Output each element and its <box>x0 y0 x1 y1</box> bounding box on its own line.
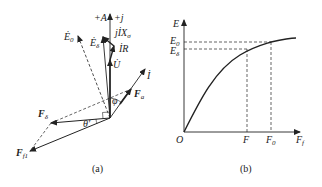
figure-canvas: +A +j jİXσ İR Ė0 Ėδ U̇ İ Fa Fδ Ff1 φ θ′ … <box>0 0 322 187</box>
F-tick-label: F <box>242 134 250 145</box>
theta-label: θ′ <box>83 118 91 129</box>
E-delta-phasor <box>103 37 110 118</box>
E0-phasor <box>78 36 110 118</box>
caption-b: (b) <box>240 163 252 175</box>
E-delta-label: Ėδ <box>89 37 100 50</box>
magnetization-curve: E E0 Eδ O F F0 Ff (b) <box>169 18 305 175</box>
saturation-curve <box>184 38 296 132</box>
U-label: U̇ <box>113 59 121 70</box>
y-axis-label: E <box>172 18 179 29</box>
F0-tick-label: F0 <box>265 134 276 147</box>
theta-arc <box>96 119 97 124</box>
Ff1-label: Ff1 <box>15 147 28 160</box>
E0-label: Ė0 <box>63 31 74 44</box>
plus-A-label: +A <box>94 12 108 23</box>
F-delta-vector <box>51 118 110 123</box>
phasor-diagram: +A +j jİXσ İR Ė0 Ėδ U̇ İ Fa Fδ Ff1 φ θ′ … <box>15 12 151 175</box>
I-label: İ <box>146 70 151 81</box>
plus-j-label: +j <box>114 12 124 23</box>
IR-phasor <box>110 46 114 60</box>
caption-a: (a) <box>92 163 103 175</box>
x-axis-label: Ff <box>295 134 305 147</box>
Fa-label: Fa <box>133 88 145 101</box>
phi-label: φ <box>112 95 118 106</box>
jIX-label: jİXσ <box>113 27 131 40</box>
Ff1-vector <box>30 118 110 151</box>
IR-label: İR <box>118 43 128 54</box>
origin-label: O <box>176 134 183 145</box>
F-delta-label: Fδ <box>37 108 49 121</box>
jIX-phasor <box>103 37 114 46</box>
